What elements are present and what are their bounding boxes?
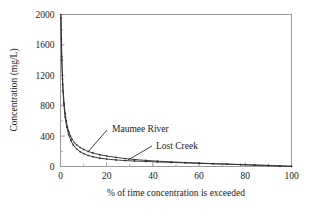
data-point <box>115 159 117 161</box>
x-axis-title: % of time concentration is exceeded <box>107 188 245 198</box>
x-tick-label: 0 <box>58 171 63 181</box>
data-point <box>134 159 136 161</box>
y-tick-label: 400 <box>40 132 55 142</box>
data-point <box>106 158 108 160</box>
data-point <box>115 157 117 159</box>
concentration-duration-chart: 0400800120016002000 020406080100 Maumee … <box>0 0 319 211</box>
data-point <box>63 103 65 105</box>
data-point <box>64 116 66 118</box>
data-point <box>134 160 136 162</box>
x-tick-label: 100 <box>284 171 299 181</box>
data-point <box>212 163 214 165</box>
data-point <box>124 158 126 160</box>
y-tick-label: 2000 <box>36 10 55 20</box>
x-tick-label: 60 <box>194 171 204 181</box>
data-point <box>145 161 147 163</box>
x-tick-label: 20 <box>102 171 112 181</box>
data-point <box>62 84 64 86</box>
x-tick-label: 80 <box>241 171 251 181</box>
data-point <box>92 152 94 154</box>
data-point <box>240 164 242 166</box>
data-point <box>83 149 85 151</box>
data-point <box>279 165 281 167</box>
data-point <box>79 147 81 149</box>
data-point <box>92 156 94 158</box>
data-point <box>171 162 173 164</box>
data-point <box>74 142 76 144</box>
data-point <box>268 165 270 167</box>
data-point <box>157 161 159 163</box>
y-tick-label: 1600 <box>36 40 55 50</box>
data-point <box>124 160 126 162</box>
y-axis-title: Concentration (mg/L) <box>9 48 20 131</box>
data-point <box>70 140 72 142</box>
data-point <box>184 162 186 164</box>
annotation-lost-creek: Lost Creek <box>156 141 198 151</box>
data-point <box>76 144 78 146</box>
annotation-maumee-river: Maumee River <box>112 124 170 134</box>
data-point <box>60 14 62 16</box>
data-point <box>99 157 101 159</box>
y-tick-label: 800 <box>40 101 55 111</box>
data-point <box>79 151 81 153</box>
data-point <box>83 153 85 155</box>
data-point <box>71 138 73 140</box>
data-point <box>61 55 63 57</box>
data-point <box>226 163 228 165</box>
data-point <box>87 155 89 157</box>
data-point <box>68 134 70 136</box>
data-point <box>254 164 256 166</box>
data-point <box>66 126 68 128</box>
chart-figure: 0400800120016002000 020406080100 Maumee … <box>0 0 319 211</box>
data-point <box>72 144 74 146</box>
x-tick-label: 40 <box>148 171 158 181</box>
y-tick-label: 1200 <box>36 71 55 81</box>
y-tick-label: 0 <box>50 162 55 172</box>
data-point <box>198 162 200 164</box>
data-point <box>99 154 101 156</box>
data-point <box>60 17 62 19</box>
data-point <box>291 166 293 168</box>
data-point <box>106 155 108 157</box>
data-point <box>76 148 78 150</box>
